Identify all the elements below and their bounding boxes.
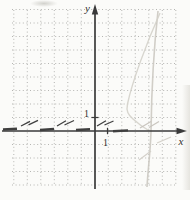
dashed-curve-slash-1a xyxy=(21,121,30,126)
labels-group: y x 1 1 xyxy=(84,2,184,148)
axes-group xyxy=(2,4,187,189)
dashed-curve-thick-3 xyxy=(76,129,90,130)
dashed-curve-thick-2 xyxy=(40,129,54,130)
dashed-curve-thick-4 xyxy=(113,130,128,131)
faint-slash-below-axis-2 xyxy=(157,137,171,143)
y-tick-label-1: 1 xyxy=(84,108,89,119)
x-tick-label-1: 1 xyxy=(103,137,108,148)
faint-curves-group xyxy=(127,11,171,187)
x-axis-arrowhead-icon xyxy=(177,128,188,134)
y-axis-label: y xyxy=(84,2,90,14)
figure-canvas: y x 1 1 xyxy=(0,0,190,200)
y-axis-arrowhead-icon xyxy=(92,4,98,15)
steep-light-curve xyxy=(147,11,158,187)
x-axis-label: x xyxy=(178,135,184,147)
faint-diagonal-arc xyxy=(127,13,160,131)
dashed-curve-thick-1 xyxy=(3,129,17,130)
dashed-curve xyxy=(3,120,128,131)
dashed-curve-slash-1b xyxy=(29,120,39,125)
graph-svg: y x 1 1 xyxy=(0,0,190,200)
